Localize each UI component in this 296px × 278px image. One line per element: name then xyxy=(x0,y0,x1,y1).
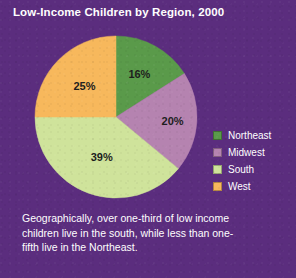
chart-legend: Northeast Midwest South West xyxy=(213,128,293,196)
pie-slice-label-west: 25% xyxy=(73,80,95,92)
pie-slice-label-midwest: 20% xyxy=(162,115,184,127)
pie-slice-west[interactable] xyxy=(35,36,116,117)
legend-swatch-west xyxy=(213,182,222,191)
caption-line-2: children live in the south, while less t… xyxy=(22,226,274,241)
legend-label-west: West xyxy=(228,181,251,192)
legend-swatch-northeast xyxy=(213,131,222,140)
legend-label-northeast: Northeast xyxy=(228,130,271,141)
page-title: Low-Income Children by Region, 2000 xyxy=(13,6,224,18)
legend-item-midwest[interactable]: Midwest xyxy=(213,145,293,160)
pie-chart: 16%20%39%25% xyxy=(34,35,198,199)
legend-label-midwest: Midwest xyxy=(228,147,265,158)
chart-caption: Geographically, over one-third of low in… xyxy=(22,211,274,255)
legend-item-west[interactable]: West xyxy=(213,179,293,194)
legend-label-south: South xyxy=(228,164,254,175)
legend-swatch-midwest xyxy=(213,148,222,157)
pie-slice-label-northeast: 16% xyxy=(128,68,150,80)
legend-item-northeast[interactable]: Northeast xyxy=(213,128,293,143)
caption-line-3: fifth live in the Northeast. xyxy=(22,240,274,255)
legend-item-south[interactable]: South xyxy=(213,162,293,177)
pie-slice-label-south: 39% xyxy=(91,151,113,163)
pie-chart-svg: 16%20%39%25% xyxy=(34,35,198,199)
legend-swatch-south xyxy=(213,165,222,174)
caption-line-1: Geographically, over one-third of low in… xyxy=(22,211,274,226)
